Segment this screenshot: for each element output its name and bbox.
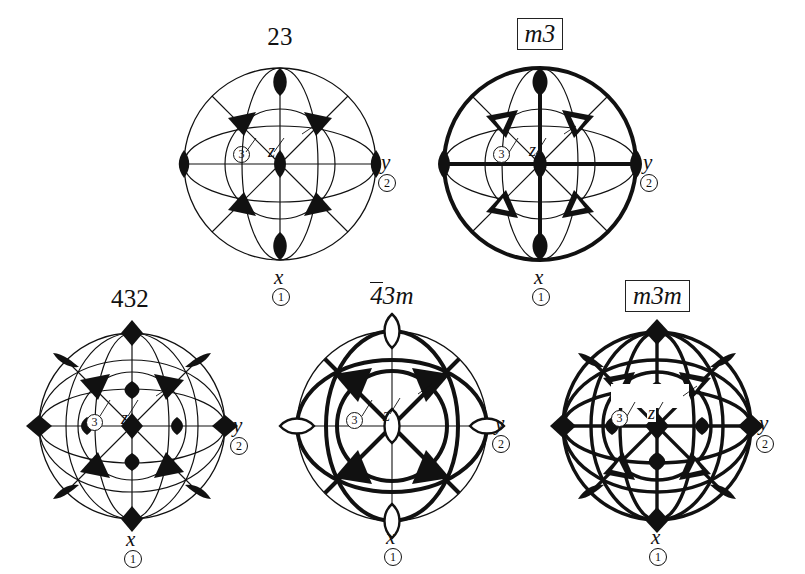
stereogram-23: 23 [170, 24, 390, 274]
x-axis-order-43m: 1 [384, 548, 402, 566]
x-axis-label-43m: x [386, 527, 395, 548]
stereogram-43m: 43m [282, 282, 502, 536]
y-axis-order-m3: 2 [640, 174, 658, 192]
stereogram-m3m: m3m [545, 280, 770, 536]
z-axis-label-23: z [268, 142, 275, 160]
triad-order-label-23: 3 [233, 146, 250, 163]
x-axis-label-m3m: x [651, 527, 660, 548]
stereogram-canvas-23 [170, 24, 390, 274]
stereogram-canvas-43m [282, 282, 502, 536]
x-axis-order-m3m: 1 [649, 548, 667, 566]
stereogram-m3: m3 [425, 18, 655, 274]
y-axis-label-432: y [233, 415, 242, 436]
x-axis-label-m3: x [534, 267, 543, 288]
triad-order-label-43m: 3 [346, 412, 363, 429]
y-axis-label-m3m: y [759, 413, 768, 434]
x-axis-order-432: 1 [124, 550, 142, 568]
y-axis-order-23: 2 [378, 174, 396, 192]
y-axis-label-23: y [381, 152, 390, 173]
y-axis-order-m3m: 2 [756, 435, 774, 453]
y-axis-label-43m: y [495, 413, 504, 434]
y-axis-label-m3: y [643, 152, 652, 173]
stereogram-canvas-m3m [545, 280, 770, 536]
figure-sheet: 23 [0, 0, 805, 574]
triad-order-label-432: 3 [86, 414, 103, 431]
x-axis-label-432: x [126, 529, 135, 550]
y-axis-order-43m: 2 [492, 435, 510, 453]
z-axis-label-432: z [121, 409, 128, 427]
z-axis-label-43m: z [383, 406, 390, 424]
z-axis-label-m3: z [529, 141, 536, 159]
four-bar-open-lens [280, 314, 504, 538]
y-axis-order-432: 2 [230, 437, 248, 455]
triad-order-label-m3m: 3 [611, 410, 628, 427]
z-axis-label-m3m: z [647, 404, 656, 422]
triad-order-label-m3: 3 [493, 146, 510, 163]
stereogram-canvas-m3 [425, 18, 655, 274]
stereogram-canvas-432 [20, 286, 240, 536]
stereogram-432: 432 [20, 286, 240, 536]
